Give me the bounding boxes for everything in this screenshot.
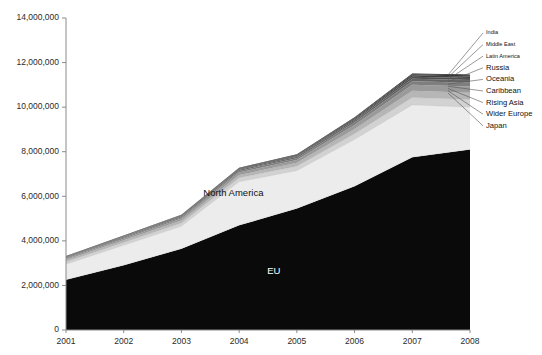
legend-label-middle-east: Middle East <box>486 41 516 47</box>
x-tick-label: 2004 <box>230 336 249 346</box>
series-label-north-america: North America <box>203 187 264 198</box>
y-tick-label: 8,000,000 <box>21 146 59 156</box>
series-label-eu: EU <box>267 265 280 276</box>
y-tick-label: 12,000,000 <box>16 57 59 67</box>
y-tick-label: 4,000,000 <box>21 235 59 245</box>
y-tick-label: 0 <box>54 324 59 334</box>
x-tick-label: 2005 <box>287 336 306 346</box>
x-tick-label: 2006 <box>345 336 364 346</box>
x-tick-label: 2001 <box>57 336 76 346</box>
x-tick-label: 2003 <box>172 336 191 346</box>
area-bands-group <box>66 73 470 330</box>
y-tick-label: 6,000,000 <box>21 191 59 201</box>
legend-label-japan: Japan <box>486 121 507 130</box>
legend-label-latin-america: Latin America <box>486 53 521 59</box>
legend-label-wider-europe: Wider Europe <box>486 109 532 118</box>
x-tick-label: 2007 <box>403 336 422 346</box>
x-tick-label: 2008 <box>461 336 480 346</box>
stacked-area-chart: 02,000,0004,000,0006,000,0008,000,00010,… <box>0 0 542 355</box>
legend-label-rising-asia: Rising Asia <box>486 98 524 107</box>
chart-canvas: 02,000,0004,000,0006,000,0008,000,00010,… <box>0 0 542 355</box>
x-tick-label: 2002 <box>114 336 133 346</box>
legend-label-caribbean: Caribbean <box>486 86 521 95</box>
y-tick-label: 2,000,000 <box>21 280 59 290</box>
legend-label-oceania: Oceania <box>486 74 515 83</box>
y-tick-label: 10,000,000 <box>16 101 59 111</box>
legend-label-russia: Russia <box>486 63 510 72</box>
legend-leader-line <box>448 33 483 75</box>
legend-label-india: India <box>486 29 499 35</box>
y-tick-label: 14,000,000 <box>16 12 59 22</box>
legend-leader-line <box>448 45 483 78</box>
